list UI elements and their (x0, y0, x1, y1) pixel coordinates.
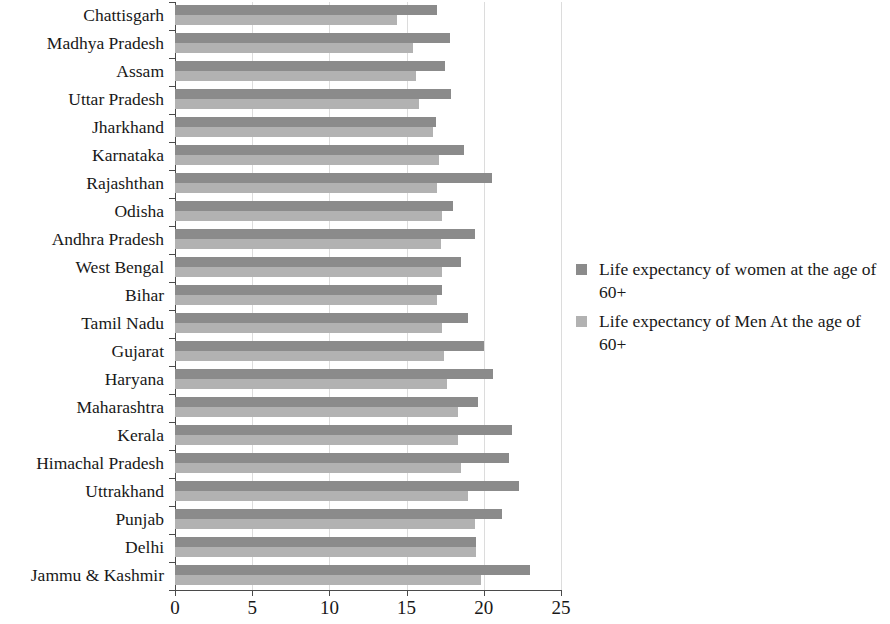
bar-women (175, 565, 530, 575)
bar-men (175, 491, 468, 501)
bar-men (175, 267, 442, 277)
bar-women (175, 285, 442, 295)
category-label: Haryana (105, 371, 164, 389)
bar-men (175, 435, 458, 445)
value-axis-tick-label: 0 (170, 598, 180, 617)
category-axis-tick (169, 422, 175, 423)
category-axis-tick (169, 282, 175, 283)
category-label: Himachal Pradesh (36, 455, 164, 473)
value-axis-tick (561, 590, 562, 596)
legend-swatch-icon (576, 264, 587, 275)
bar-women (175, 369, 493, 379)
bar-men (175, 15, 397, 25)
category-axis-tick (169, 114, 175, 115)
bar-women (175, 481, 519, 491)
value-axis-tick-label: 10 (320, 598, 339, 617)
value-axis-tick-label: 5 (247, 598, 257, 617)
gridline (561, 2, 562, 590)
category-label: Jammu & Kashmir (31, 567, 164, 585)
category-label: Jharkhand (92, 119, 164, 137)
bar-women (175, 257, 461, 267)
value-axis-tick (329, 590, 330, 596)
bar-men (175, 547, 476, 557)
bar-men (175, 323, 442, 333)
bar-women (175, 33, 450, 43)
legend-label: Life expectancy of Men At the age of 60+ (599, 310, 882, 356)
category-axis-tick (169, 30, 175, 31)
category-label: Punjab (115, 511, 164, 529)
bar-men (175, 463, 461, 473)
bar-men (175, 155, 439, 165)
bar-men (175, 127, 433, 137)
value-axis-tick (252, 590, 253, 596)
bar-men (175, 295, 437, 305)
category-label: Maharashtra (77, 399, 164, 417)
category-label: Uttrakhand (85, 483, 164, 501)
bar-women (175, 201, 453, 211)
value-axis-tick (175, 590, 176, 596)
category-axis-tick (169, 86, 175, 87)
value-axis-tick-label: 25 (552, 598, 571, 617)
bar-women (175, 89, 451, 99)
bar-men (175, 211, 442, 221)
category-axis-tick (169, 562, 175, 563)
value-axis-tick-label: 20 (474, 598, 493, 617)
legend-entry[interactable]: Life expectancy of women at the age of 6… (576, 258, 882, 304)
category-axis-tick (169, 254, 175, 255)
category-label: Kerala (117, 427, 164, 445)
bar-women (175, 229, 475, 239)
category-axis-tick (169, 310, 175, 311)
bar-women (175, 397, 478, 407)
category-label: Madhya Pradesh (47, 35, 164, 53)
category-label: Rajashthan (86, 175, 164, 193)
category-label: West Bengal (76, 259, 165, 277)
category-label: Odisha (114, 203, 164, 221)
category-axis-tick (169, 2, 175, 3)
gridline (484, 2, 485, 590)
value-axis-tick (484, 590, 485, 596)
bar-men (175, 99, 419, 109)
bar-men (175, 519, 475, 529)
legend-label: Life expectancy of women at the age of 6… (599, 258, 882, 304)
bar-women (175, 509, 502, 519)
bar-men (175, 183, 437, 193)
value-axis-tick-label: 15 (397, 598, 416, 617)
legend-entry[interactable]: Life expectancy of Men At the age of 60+ (576, 310, 882, 356)
bar-women (175, 425, 512, 435)
bar-men (175, 407, 458, 417)
legend-swatch-icon (576, 316, 587, 327)
category-axis-line (175, 590, 561, 591)
category-label: Karnataka (92, 147, 164, 165)
category-label: Uttar Pradesh (68, 91, 164, 109)
value-axis-tick (407, 590, 408, 596)
bar-women (175, 145, 464, 155)
bar-men (175, 575, 481, 585)
category-axis-tick (169, 506, 175, 507)
bar-men (175, 43, 413, 53)
category-label: Gujarat (112, 343, 164, 361)
category-axis-tick (169, 534, 175, 535)
bar-men (175, 239, 441, 249)
bar-women (175, 117, 436, 127)
category-label: Chattisgarh (83, 7, 164, 25)
bar-women (175, 61, 445, 71)
bar-women (175, 5, 437, 15)
category-axis-tick (169, 366, 175, 367)
category-axis-labels: ChattisgarhMadhya PradeshAssamUttar Prad… (0, 2, 170, 590)
category-axis-tick (169, 394, 175, 395)
bar-women (175, 341, 484, 351)
bar-women (175, 537, 476, 547)
bar-women (175, 313, 468, 323)
chart-legend: Life expectancy of women at the age of 6… (576, 258, 882, 362)
bar-women (175, 173, 492, 183)
category-label: Delhi (125, 539, 164, 557)
category-axis-tick (169, 338, 175, 339)
bar-men (175, 71, 416, 81)
category-label: Andhra Pradesh (52, 231, 164, 249)
bar-men (175, 379, 447, 389)
category-axis-tick (169, 478, 175, 479)
category-axis-tick (169, 170, 175, 171)
category-axis-tick (169, 198, 175, 199)
category-label: Tamil Nadu (81, 315, 164, 333)
bar-women (175, 453, 509, 463)
